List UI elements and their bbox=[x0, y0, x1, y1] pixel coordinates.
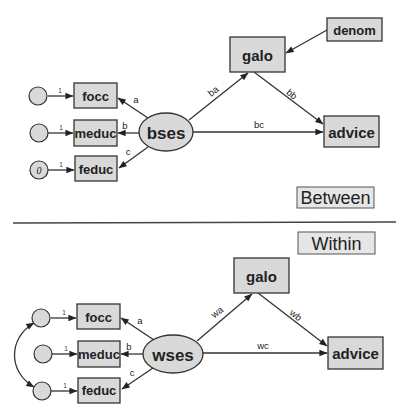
between-path-bc-label: bc bbox=[254, 119, 264, 130]
within-focc-label: focc bbox=[85, 310, 112, 325]
between-latent-label: bses bbox=[147, 124, 186, 143]
between-feduc-label: feduc bbox=[79, 162, 114, 177]
within-path-wa bbox=[197, 294, 252, 341]
within-section-label: Within bbox=[311, 234, 361, 254]
level-divider bbox=[13, 222, 396, 223]
between-loading-meduc-1: 1 bbox=[59, 124, 63, 131]
between-error-meduc bbox=[30, 124, 48, 142]
within-error-covariance bbox=[15, 323, 35, 387]
within-loading-feduc-1: 1 bbox=[63, 382, 67, 389]
between-path-a-label: a bbox=[133, 94, 139, 105]
within-feduc-label: feduc bbox=[82, 383, 117, 398]
within-meduc-label: meduc bbox=[78, 347, 120, 362]
between-loading-feduc-1: 1 bbox=[59, 161, 63, 168]
between-path-c-label: c bbox=[126, 146, 131, 157]
within-error-meduc bbox=[34, 345, 52, 363]
between-path-c bbox=[119, 147, 148, 168]
between-path-ba bbox=[189, 73, 248, 120]
within-loading-focc-1: 1 bbox=[62, 309, 66, 316]
between-focc-label: focc bbox=[82, 89, 109, 104]
between-path-b-label: b bbox=[122, 120, 127, 131]
within-path-wc-label: wc bbox=[256, 340, 269, 351]
between-error-feduc-zero: 0 bbox=[37, 165, 42, 176]
between-loading-focc-1: 1 bbox=[58, 87, 62, 94]
path-diagram: 0 1 1 1 focc meduc feduc a b c bses galo… bbox=[0, 0, 411, 420]
between-advice-label: advice bbox=[328, 124, 375, 141]
between-denom-label: denom bbox=[333, 23, 376, 38]
within-path-wb-label: wb bbox=[287, 306, 304, 323]
between-section-label: Between bbox=[300, 188, 370, 208]
within-loading-meduc-1: 1 bbox=[64, 345, 68, 352]
within-path-wb bbox=[258, 293, 327, 346]
within-error-focc bbox=[32, 309, 50, 327]
within-galo-label: galo bbox=[246, 268, 277, 285]
between-path-bb-label: bb bbox=[284, 86, 299, 101]
within-advice-label: advice bbox=[332, 345, 379, 362]
between-error-focc bbox=[29, 87, 47, 105]
between-path-denom-galo bbox=[286, 30, 327, 53]
within-path-c bbox=[122, 368, 153, 389]
within-path-b-label: b bbox=[126, 341, 131, 352]
between-level: 0 1 1 1 focc meduc feduc a b c bses galo… bbox=[29, 18, 382, 208]
within-level: Within 1 1 1 focc meduc feduc a b c bbox=[15, 232, 384, 403]
within-path-c-label: c bbox=[130, 367, 135, 378]
between-meduc-label: meduc bbox=[75, 126, 117, 141]
between-galo-label: galo bbox=[242, 47, 273, 64]
within-path-a-label: a bbox=[137, 315, 143, 326]
within-latent-label: wses bbox=[151, 346, 194, 365]
within-error-feduc bbox=[33, 382, 51, 400]
